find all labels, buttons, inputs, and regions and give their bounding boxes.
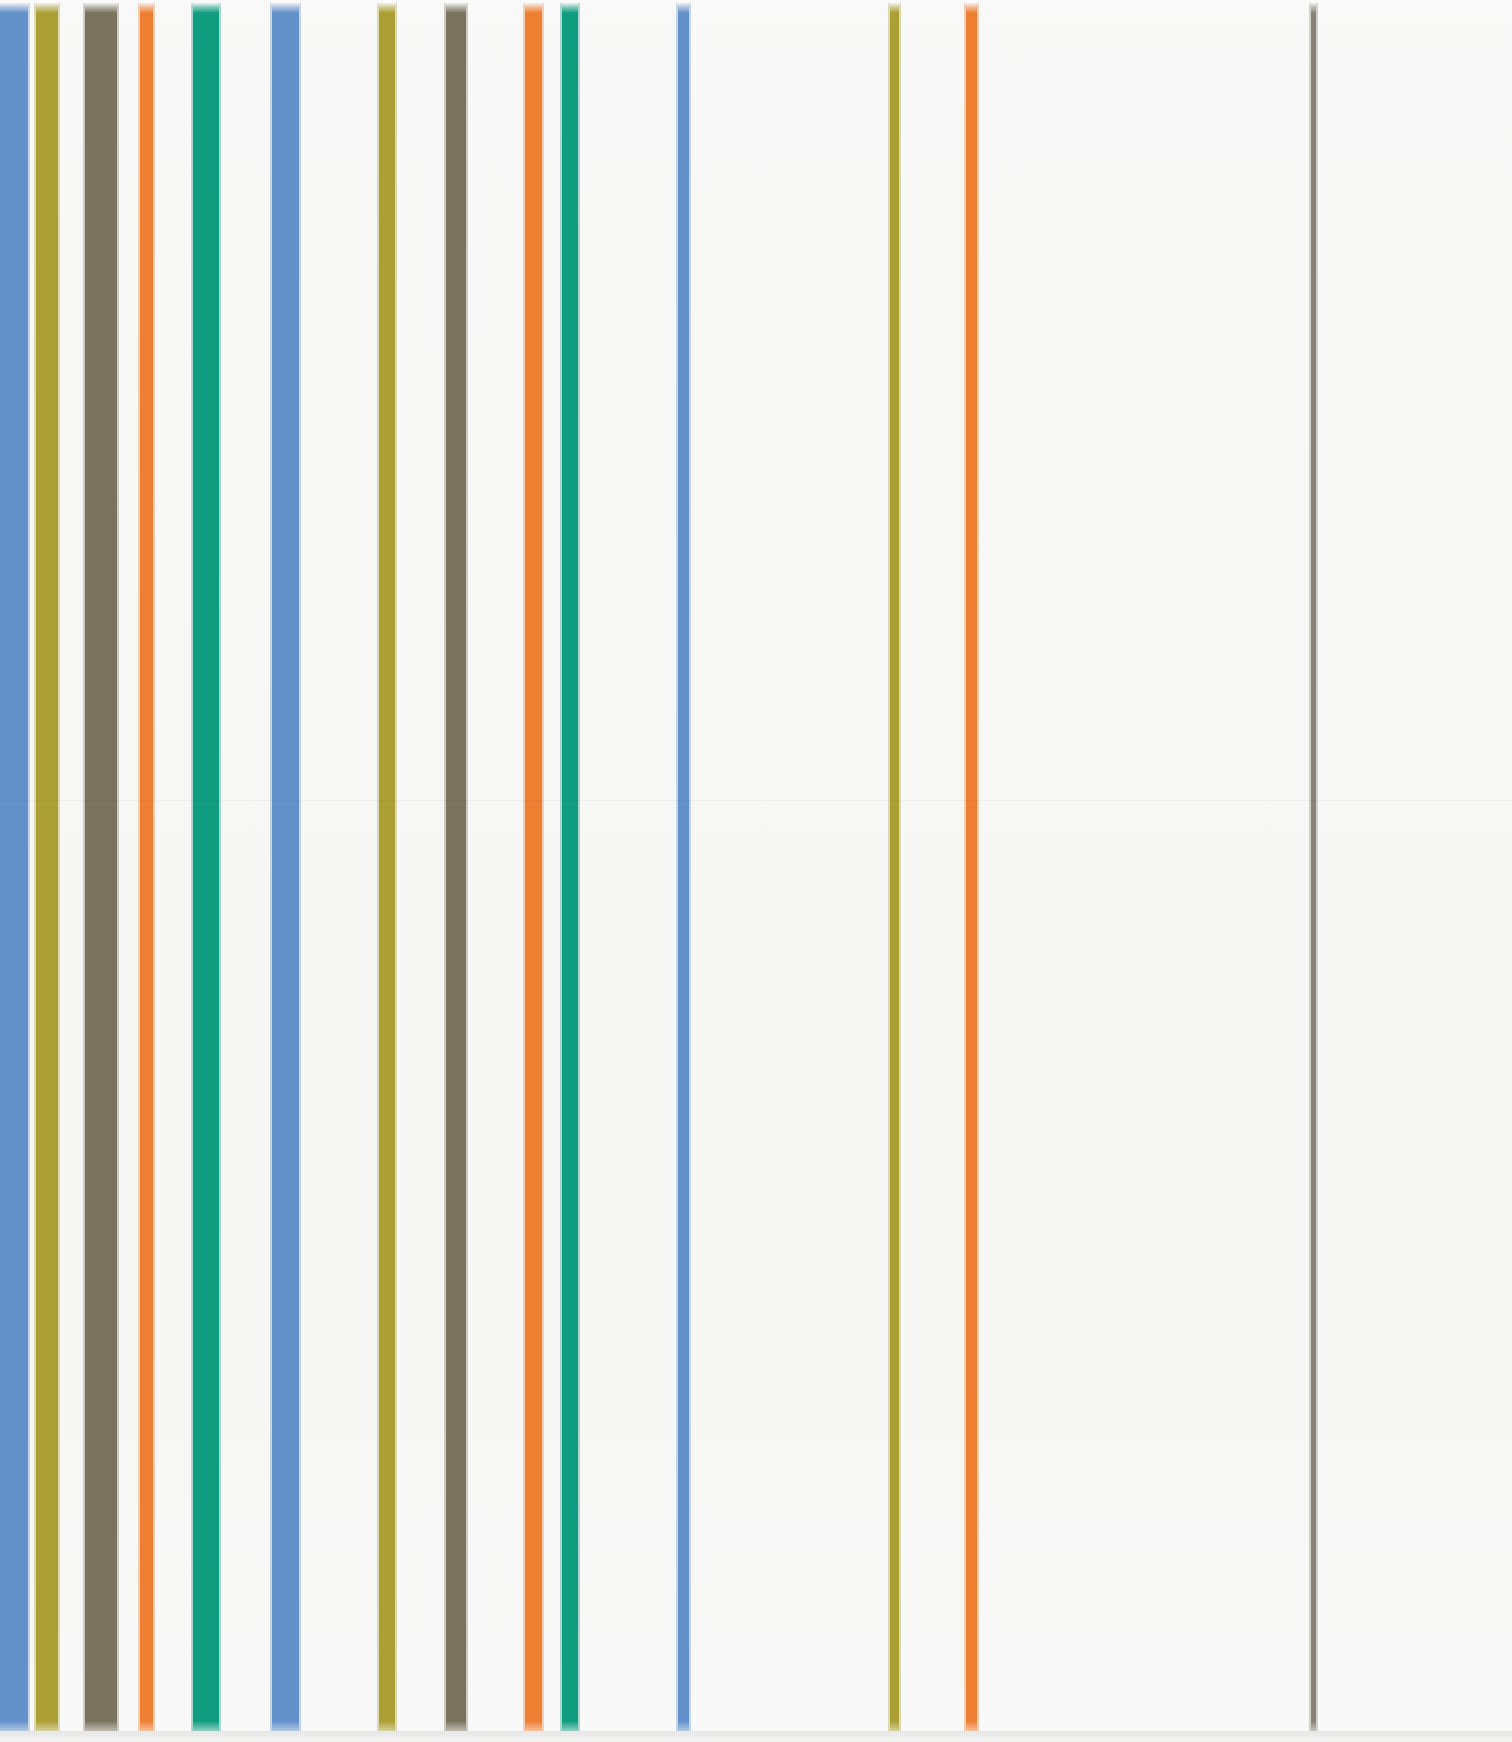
- stripe-orange-3: [966, 0, 977, 1742]
- stripe-olive-gold-1: [36, 0, 58, 1742]
- paper-ground: [0, 0, 1512, 1742]
- stripe-orange-1-body: [140, 3, 153, 1731]
- stripe-warm-gray-1-body: [1311, 3, 1316, 1731]
- stripe-dark-olive-2-body: [446, 3, 466, 1731]
- stripe-olive-gold-1-body: [36, 3, 58, 1731]
- stripe-olive-gold-2-edge-right: [395, 3, 397, 1731]
- stripe-warm-gray-1-edge-right: [1316, 3, 1318, 1731]
- stripe-orange-2-edge-right: [542, 3, 544, 1731]
- stripe-olive-gold-2-body: [379, 3, 395, 1731]
- stripe-olive-gold-3-body: [890, 3, 899, 1731]
- stripe-cornflower-blue-1: [0, 0, 28, 1742]
- stripe-teal-green-1-body: [193, 3, 219, 1731]
- stripe-cornflower-blue-3-edge-left: [676, 3, 678, 1731]
- stripe-cornflower-blue-2-body: [272, 3, 299, 1731]
- stripe-olive-gold-2: [379, 0, 395, 1742]
- stripe-orange-3-body: [966, 3, 977, 1731]
- stripe-cornflower-blue-3: [678, 0, 689, 1742]
- stripe-dark-olive-1-edge-left: [83, 3, 85, 1731]
- stripe-warm-gray-1-edge-left: [1309, 3, 1311, 1731]
- stripe-olive-gold-1-edge-left: [34, 3, 36, 1731]
- stripe-olive-gold-1-edge-right: [58, 3, 60, 1731]
- stripe-orange-3-edge-left: [964, 3, 966, 1731]
- stripe-orange-2-edge-left: [523, 3, 525, 1731]
- stripe-dark-olive-1: [85, 0, 117, 1742]
- stripe-olive-gold-2-edge-left: [377, 3, 379, 1731]
- stripe-teal-green-2: [562, 0, 578, 1742]
- stripe-warm-gray-1: [1311, 0, 1316, 1742]
- stripe-orange-3-edge-right: [977, 3, 979, 1731]
- stripe-teal-green-2-edge-left: [560, 3, 562, 1731]
- stripe-orange-2: [525, 0, 542, 1742]
- stripe-dark-olive-2-edge-right: [466, 3, 468, 1731]
- stripe-cornflower-blue-3-body: [678, 3, 689, 1731]
- stripe-teal-green-1: [193, 0, 219, 1742]
- artwork-canvas: [0, 0, 1512, 1742]
- stripe-dark-olive-1-edge-right: [117, 3, 119, 1731]
- stripe-dark-olive-1-body: [85, 3, 117, 1731]
- stripe-cornflower-blue-3-edge-right: [689, 3, 691, 1731]
- stripe-cornflower-blue-2-edge-right: [299, 3, 301, 1731]
- stripe-cornflower-blue-1-edge-right: [28, 3, 30, 1731]
- stripe-orange-1-edge-right: [153, 3, 155, 1731]
- stripe-orange-1-edge-left: [138, 3, 140, 1731]
- stripe-olive-gold-3-edge-left: [888, 3, 890, 1731]
- stripe-teal-green-1-edge-right: [219, 3, 221, 1731]
- stripe-olive-gold-3-edge-right: [899, 3, 901, 1731]
- stripe-dark-olive-2-edge-left: [444, 3, 446, 1731]
- stripe-dark-olive-2: [446, 0, 466, 1742]
- stripe-teal-green-2-edge-right: [578, 3, 580, 1731]
- stripe-cornflower-blue-1-body: [0, 3, 28, 1731]
- stripe-cornflower-blue-2-edge-left: [270, 3, 272, 1731]
- stripe-teal-green-1-edge-left: [191, 3, 193, 1731]
- stripe-teal-green-2-body: [562, 3, 578, 1731]
- stripe-orange-2-body: [525, 3, 542, 1731]
- stripe-cornflower-blue-2: [272, 0, 299, 1742]
- stripe-olive-gold-3: [890, 0, 899, 1742]
- stripe-orange-1: [140, 0, 153, 1742]
